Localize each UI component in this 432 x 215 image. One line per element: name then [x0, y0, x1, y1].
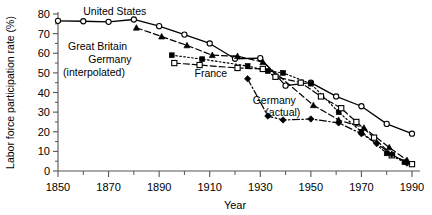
- data-point-marker: [55, 18, 60, 23]
- data-point-marker: [106, 19, 111, 24]
- data-point-marker: [157, 24, 162, 29]
- x-tick-label: 1870: [96, 181, 120, 193]
- x-tick-label: 1990: [400, 181, 424, 193]
- data-point-marker: [81, 19, 86, 24]
- data-point-marker: [260, 66, 265, 71]
- data-point-marker: [384, 121, 389, 126]
- data-point-marker: [172, 60, 177, 65]
- x-tick-label: 1950: [299, 181, 323, 193]
- y-tick-label: 50: [38, 67, 50, 79]
- y-tick-label: 60: [38, 47, 50, 59]
- data-point-marker: [354, 119, 359, 124]
- data-point-marker: [281, 70, 286, 75]
- y-tick-label: 70: [38, 28, 50, 40]
- x-tick-label: 1910: [197, 181, 221, 193]
- y-tick-label: 30: [38, 106, 50, 118]
- data-point-marker: [371, 135, 376, 140]
- data-point-marker: [235, 65, 240, 70]
- x-tick-label: 1850: [46, 181, 70, 193]
- x-axis-title: Year: [224, 199, 247, 211]
- data-point-marker: [318, 94, 323, 99]
- data-point-marker: [298, 80, 303, 85]
- data-point-marker: [339, 106, 344, 111]
- data-point-marker: [359, 104, 364, 109]
- series-label: (actual): [265, 106, 300, 118]
- data-point-marker: [131, 17, 136, 22]
- chart-figure: 0102030405060708018501870189019101930195…: [0, 0, 432, 215]
- y-tick-label: 0: [44, 165, 50, 177]
- data-point-marker: [273, 74, 278, 79]
- data-point-marker: [334, 94, 339, 99]
- series-label: United States: [83, 5, 146, 17]
- series-label: France: [195, 67, 228, 79]
- x-tick-label: 1890: [147, 181, 171, 193]
- series-label: (interpolated): [63, 66, 125, 78]
- data-point-marker: [200, 57, 205, 62]
- y-tick-label: 80: [38, 8, 50, 20]
- data-point-marker: [207, 41, 212, 46]
- data-point-marker: [409, 131, 414, 136]
- series-label: Germany: [88, 53, 132, 65]
- data-point-marker: [169, 53, 174, 58]
- x-tick-label: 1970: [349, 181, 373, 193]
- data-point-marker: [409, 162, 414, 167]
- data-point-marker: [245, 64, 250, 69]
- y-tick-label: 20: [38, 126, 50, 138]
- y-tick-label: 10: [38, 145, 50, 157]
- series-label: Germany: [253, 94, 297, 106]
- y-axis-title: Labor force participation rate (%): [4, 16, 16, 169]
- series-label: Great Britain: [68, 40, 127, 52]
- line-chart-svg: 0102030405060708018501870189019101930195…: [0, 0, 432, 215]
- x-tick-label: 1930: [248, 181, 272, 193]
- data-point-marker: [308, 81, 313, 86]
- data-point-marker: [182, 32, 187, 37]
- y-tick-label: 40: [38, 87, 50, 99]
